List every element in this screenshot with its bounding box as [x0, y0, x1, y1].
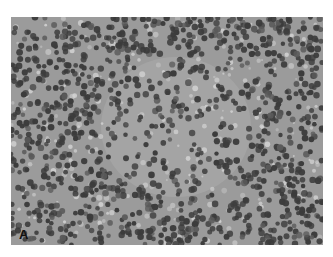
panel-label: A: [19, 228, 28, 241]
micrograph-panel: A: [11, 17, 323, 245]
micrograph-image: [11, 17, 323, 245]
